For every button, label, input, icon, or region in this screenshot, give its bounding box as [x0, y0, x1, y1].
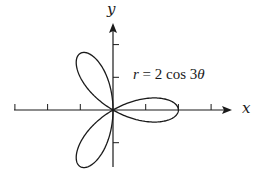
y-axis-label: y — [107, 2, 115, 17]
y-axis — [109, 23, 119, 167]
x-axis-label: x — [242, 101, 250, 116]
equation-theta: θ — [197, 66, 204, 82]
equation-label: r = 2 cos 3θ — [133, 67, 205, 82]
y-axis-ticks — [113, 45, 119, 143]
polar-rose-plot — [0, 0, 258, 169]
equation-body: = 2 cos 3 — [139, 66, 197, 82]
